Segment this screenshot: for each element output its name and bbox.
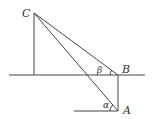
label-angle-beta: β bbox=[96, 65, 102, 75]
angle-arc-alpha bbox=[110, 105, 113, 111]
segment-ca bbox=[34, 13, 118, 111]
diagram-svg: C B A β α bbox=[0, 0, 153, 119]
label-point-a: A bbox=[122, 104, 131, 117]
angle-arc-beta bbox=[110, 70, 112, 75]
label-point-b: B bbox=[121, 63, 130, 76]
label-point-c: C bbox=[22, 7, 31, 20]
geometry-diagram: C B A β α bbox=[0, 0, 153, 119]
segment-cb bbox=[34, 13, 118, 75]
label-angle-alpha: α bbox=[103, 100, 109, 110]
